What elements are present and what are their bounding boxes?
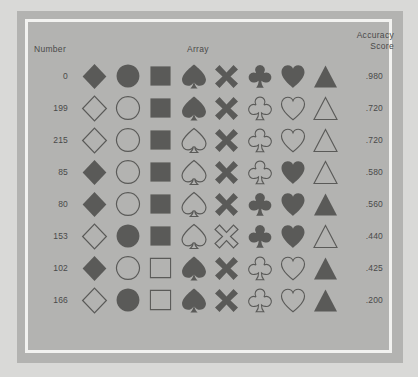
x-icon [210, 125, 243, 155]
triangle-icon [309, 285, 342, 315]
accuracy-score-value: .425 [345, 263, 389, 273]
circle-icon [111, 189, 144, 219]
club-icon [243, 93, 276, 123]
spade-icon [177, 125, 210, 155]
row-number-value: 0 [28, 71, 72, 81]
club-icon [243, 61, 276, 91]
heart-icon [276, 285, 309, 315]
circle-icon [111, 285, 144, 315]
row-number-value: 166 [28, 295, 72, 305]
spade-icon [177, 253, 210, 283]
accuracy-header-line2: Score [357, 41, 394, 52]
spade-icon [177, 157, 210, 187]
heart-icon [276, 93, 309, 123]
accuracy-score-value: .440 [345, 231, 389, 241]
accuracy-score-value: .980 [345, 71, 389, 81]
row-number-value: 153 [28, 231, 72, 241]
circle-icon [111, 157, 144, 187]
club-icon [243, 221, 276, 251]
row-symbol-array [72, 189, 345, 219]
club-icon [243, 189, 276, 219]
heart-icon [276, 157, 309, 187]
column-header-accuracy-score: Accuracy Score [357, 30, 394, 52]
column-header-number: Number [34, 44, 66, 54]
accuracy-header-line1: Accuracy [357, 30, 394, 41]
triangle-icon [309, 61, 342, 91]
triangle-icon [309, 253, 342, 283]
spade-icon [177, 189, 210, 219]
row-symbol-array [72, 157, 345, 187]
triangle-icon [309, 221, 342, 251]
row-number-value: 215 [28, 135, 72, 145]
accuracy-score-value: .720 [345, 103, 389, 113]
diamond-icon [78, 253, 111, 283]
row-number-value: 80 [28, 199, 72, 209]
heart-icon [276, 253, 309, 283]
x-icon [210, 61, 243, 91]
circle-icon [111, 93, 144, 123]
diamond-icon [78, 221, 111, 251]
heart-icon [276, 221, 309, 251]
x-icon [210, 93, 243, 123]
circle-icon [111, 221, 144, 251]
table-row: 199.720 [28, 92, 389, 124]
row-number-value: 85 [28, 167, 72, 177]
square-icon [144, 93, 177, 123]
diamond-icon [78, 61, 111, 91]
circle-icon [111, 125, 144, 155]
triangle-icon [309, 93, 342, 123]
x-icon [210, 221, 243, 251]
square-icon [144, 285, 177, 315]
x-icon [210, 253, 243, 283]
diamond-icon [78, 285, 111, 315]
column-header-array: Array [187, 44, 209, 54]
spade-icon [177, 285, 210, 315]
heart-icon [276, 189, 309, 219]
triangle-icon [309, 189, 342, 219]
spade-icon [177, 221, 210, 251]
club-icon [243, 157, 276, 187]
circle-icon [111, 61, 144, 91]
triangle-icon [309, 125, 342, 155]
row-symbol-array [72, 285, 345, 315]
square-icon [144, 189, 177, 219]
triangle-icon [309, 157, 342, 187]
table-row: 102.425 [28, 252, 389, 284]
accuracy-score-value: .200 [345, 295, 389, 305]
square-icon [144, 61, 177, 91]
row-symbol-array [72, 93, 345, 123]
figure-root: Number Array Accuracy Score 0.980199.720… [0, 0, 418, 377]
accuracy-score-value: .580 [345, 167, 389, 177]
square-icon [144, 157, 177, 187]
circle-icon [111, 253, 144, 283]
row-symbol-array [72, 221, 345, 251]
diamond-icon [78, 125, 111, 155]
accuracy-score-value: .720 [345, 135, 389, 145]
club-icon [243, 285, 276, 315]
square-icon [144, 125, 177, 155]
club-icon [243, 253, 276, 283]
heart-icon [276, 61, 309, 91]
table-row: 153.440 [28, 220, 389, 252]
row-number-value: 102 [28, 263, 72, 273]
row-number-value: 199 [28, 103, 72, 113]
diamond-icon [78, 157, 111, 187]
accuracy-score-value: .560 [345, 199, 389, 209]
table-row: 0.980 [28, 60, 389, 92]
row-symbol-array [72, 61, 345, 91]
table-row: 85.580 [28, 156, 389, 188]
row-symbol-array [72, 253, 345, 283]
row-symbol-array [72, 125, 345, 155]
square-icon [144, 253, 177, 283]
heart-icon [276, 125, 309, 155]
diamond-icon [78, 189, 111, 219]
x-icon [210, 285, 243, 315]
spade-icon [177, 93, 210, 123]
symbol-array-table: 0.980199.720215.72085.58080.560153.44010… [28, 60, 389, 316]
square-icon [144, 221, 177, 251]
spade-icon [177, 61, 210, 91]
table-row: 80.560 [28, 188, 389, 220]
club-icon [243, 125, 276, 155]
diamond-icon [78, 93, 111, 123]
table-row: 215.720 [28, 124, 389, 156]
